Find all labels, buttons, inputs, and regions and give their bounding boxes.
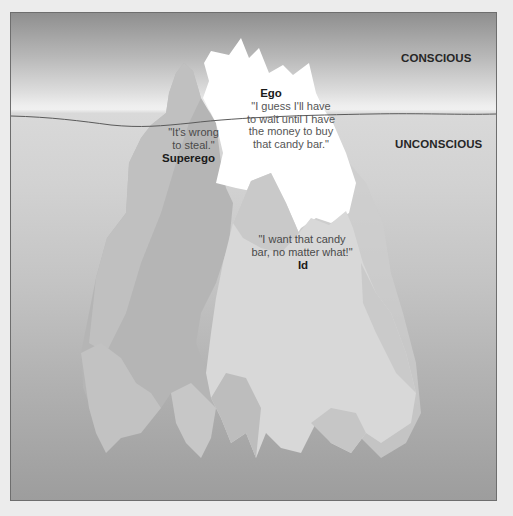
ego-quote: "I guess I'll have to wait until I have … [231,100,351,150]
iceberg-diagram: CONSCIOUS UNCONSCIOUS Ego "I guess I'll … [10,12,497,501]
conscious-label: CONSCIOUS [401,52,472,64]
ego-name: Ego [241,87,301,100]
id-name: Id [283,259,323,272]
id-quote: "I want that candy bar, no matter what!" [243,233,361,258]
superego-name: Superego [151,152,226,165]
unconscious-label: UNCONSCIOUS [395,138,482,150]
superego-quote: "It's wrong to steal." [156,126,231,151]
